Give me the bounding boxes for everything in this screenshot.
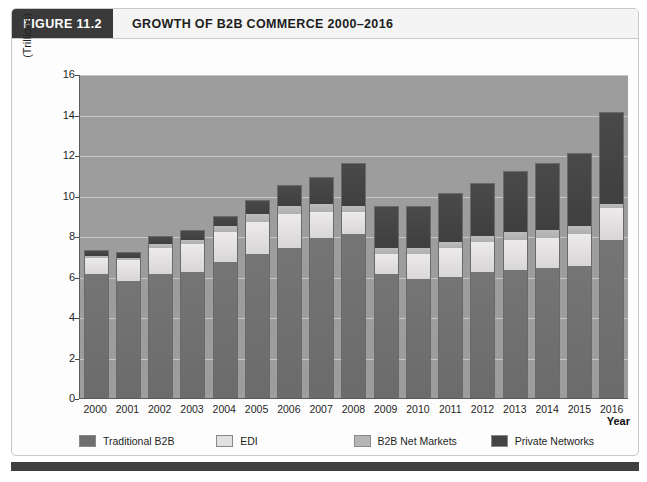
bar-segment xyxy=(180,230,205,240)
legend-label: EDI xyxy=(240,435,258,447)
x-tick-label: 2003 xyxy=(179,403,204,421)
bar-column[interactable] xyxy=(116,75,141,398)
footer-bar xyxy=(11,462,639,471)
bar-column[interactable] xyxy=(503,75,528,398)
bar-column[interactable] xyxy=(309,75,334,398)
bar-segment xyxy=(535,230,560,238)
bar-segment xyxy=(213,216,238,226)
plot-area xyxy=(79,75,628,399)
bar-segment xyxy=(406,254,431,278)
legend-swatch xyxy=(79,435,96,447)
bar-segment xyxy=(341,234,366,398)
x-tick-label: 2012 xyxy=(470,403,495,421)
bar-segment xyxy=(84,258,109,274)
x-tick-label: 2005 xyxy=(244,403,269,421)
bar-segment xyxy=(245,222,270,254)
bar-column[interactable] xyxy=(148,75,173,398)
bar-segment xyxy=(277,248,302,398)
x-tick-label: 2015 xyxy=(567,403,592,421)
x-tick-label: 2006 xyxy=(276,403,301,421)
bar-segment xyxy=(213,232,238,262)
bar-column[interactable] xyxy=(535,75,560,398)
x-tick-label: 2010 xyxy=(405,403,430,421)
bar-segment xyxy=(309,212,334,238)
bar-segment xyxy=(277,185,302,205)
bar-segment xyxy=(406,206,431,249)
y-tick-label: 14 xyxy=(49,109,75,121)
legend-label: Private Networks xyxy=(515,435,594,447)
bar-segment xyxy=(438,248,463,276)
bar-column[interactable] xyxy=(245,75,270,398)
bar-segment xyxy=(567,234,592,266)
y-tick-label: 0 xyxy=(49,392,75,404)
bar-segment xyxy=(599,113,624,204)
bar-segment xyxy=(180,244,205,272)
bar-segment xyxy=(535,163,560,230)
bar-segment xyxy=(599,208,624,240)
chart-container: (Trillions) 0246810121416 20002001200220… xyxy=(12,39,640,456)
legend-swatch xyxy=(354,435,371,447)
bar-series-group xyxy=(80,75,628,398)
bar-segment xyxy=(503,232,528,240)
bar-column[interactable] xyxy=(277,75,302,398)
bar-segment xyxy=(567,153,592,226)
bar-segment xyxy=(309,238,334,398)
bar-column[interactable] xyxy=(438,75,463,398)
bar-segment xyxy=(277,214,302,248)
bar-column[interactable] xyxy=(341,75,366,398)
bar-column[interactable] xyxy=(374,75,399,398)
legend-label: Traditional B2B xyxy=(103,435,174,447)
bar-segment xyxy=(567,226,592,234)
y-tick-label: 10 xyxy=(49,190,75,202)
legend-item[interactable]: B2B Net Markets xyxy=(354,435,491,447)
bar-segment xyxy=(277,206,302,214)
legend-item[interactable]: Private Networks xyxy=(491,435,628,447)
y-axis-title: (Trillions) xyxy=(21,13,33,103)
bar-segment xyxy=(245,214,270,222)
bar-segment xyxy=(245,200,270,214)
bar-segment xyxy=(535,238,560,268)
figure-header: FIGURE 11.2 GROWTH OF B2B COMMERCE 2000–… xyxy=(12,9,638,38)
bar-column[interactable] xyxy=(213,75,238,398)
bar-segment xyxy=(309,177,334,203)
y-tick-label: 8 xyxy=(49,230,75,242)
legend-item[interactable]: Traditional B2B xyxy=(79,435,216,447)
bar-segment xyxy=(148,236,173,244)
bar-segment xyxy=(116,281,141,398)
legend-swatch xyxy=(216,435,233,447)
bar-column[interactable] xyxy=(84,75,109,398)
bar-segment xyxy=(341,163,366,206)
bar-column[interactable] xyxy=(567,75,592,398)
figure-card: FIGURE 11.2 GROWTH OF B2B COMMERCE 2000–… xyxy=(11,8,639,456)
x-tick-label: 2009 xyxy=(373,403,398,421)
bar-segment xyxy=(567,266,592,398)
x-tick-label: 2011 xyxy=(438,403,463,421)
bar-segment xyxy=(84,274,109,398)
legend-item[interactable]: EDI xyxy=(216,435,353,447)
bar-segment xyxy=(438,277,463,399)
bar-segment xyxy=(535,268,560,398)
bar-segment xyxy=(374,274,399,398)
y-tick-label: 2 xyxy=(49,352,75,364)
bar-segment xyxy=(180,272,205,398)
bar-segment xyxy=(503,171,528,232)
bar-segment xyxy=(470,272,495,398)
x-tick-label: 2013 xyxy=(502,403,527,421)
figure-title: GROWTH OF B2B COMMERCE 2000–2016 xyxy=(113,9,638,38)
bar-column[interactable] xyxy=(180,75,205,398)
bar-segment xyxy=(148,248,173,274)
y-tick-label: 16 xyxy=(49,68,75,80)
bar-column[interactable] xyxy=(599,75,624,398)
x-tick-label: 2002 xyxy=(147,403,172,421)
x-tick-label: 2000 xyxy=(83,403,108,421)
legend-label: B2B Net Markets xyxy=(378,435,457,447)
bar-segment xyxy=(438,194,463,243)
bar-segment xyxy=(309,204,334,212)
bar-column[interactable] xyxy=(406,75,431,398)
bar-segment xyxy=(599,240,624,398)
bar-segment xyxy=(470,183,495,236)
bar-segment xyxy=(148,274,173,398)
bar-column[interactable] xyxy=(470,75,495,398)
x-tick-label: 2014 xyxy=(535,403,560,421)
x-tick-label: 2001 xyxy=(115,403,140,421)
